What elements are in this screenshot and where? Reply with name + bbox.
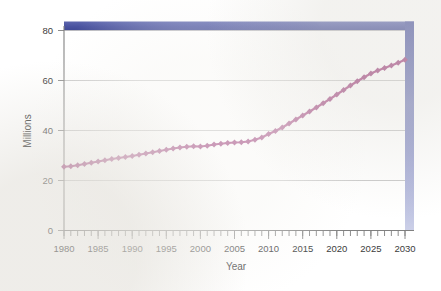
y-tick-label-40: 40 bbox=[42, 125, 53, 136]
x-tick-label-2015: 2015 bbox=[292, 243, 313, 254]
x-tick-label-1995: 1995 bbox=[156, 243, 177, 254]
x-tick-label-2010: 2010 bbox=[258, 243, 279, 254]
y-tick-label-80: 80 bbox=[42, 25, 53, 36]
y-tick-label-20: 20 bbox=[42, 175, 53, 186]
x-tick-label-2000: 2000 bbox=[190, 243, 211, 254]
x-tick-label-1980: 1980 bbox=[53, 243, 74, 254]
line-chart: 80 60 40 20 0 Millions 19801985199019952… bbox=[0, 0, 441, 291]
x-axis-tick-labels: 1980198519901995200020052010201520202025… bbox=[53, 243, 415, 254]
chart-container: 80 60 40 20 0 Millions 19801985199019952… bbox=[0, 0, 441, 291]
y-tick-label-60: 60 bbox=[42, 75, 53, 86]
x-tick-label-1985: 1985 bbox=[88, 243, 109, 254]
x-tick-label-2005: 2005 bbox=[224, 243, 245, 254]
x-tick-label-2030: 2030 bbox=[394, 243, 415, 254]
y-tick-label-0: 0 bbox=[48, 225, 53, 236]
x-tick-label-1990: 1990 bbox=[122, 243, 143, 254]
y-axis-title: Millions bbox=[22, 114, 33, 147]
x-axis-title: Year bbox=[226, 261, 247, 272]
x-tick-label-2020: 2020 bbox=[326, 243, 347, 254]
x-tick-label-2025: 2025 bbox=[360, 243, 381, 254]
